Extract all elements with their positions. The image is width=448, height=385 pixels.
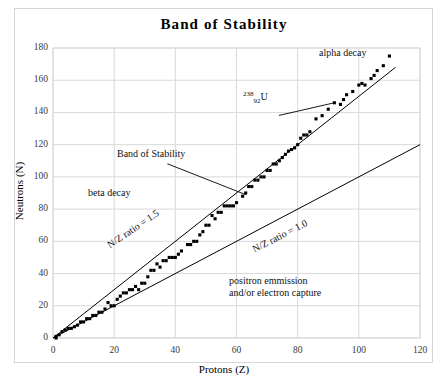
data-point xyxy=(388,55,391,58)
data-point xyxy=(308,130,311,133)
data-point xyxy=(360,82,363,85)
x-tick-label: 120 xyxy=(400,345,440,355)
data-point xyxy=(174,256,177,259)
data-point xyxy=(293,146,296,149)
data-point xyxy=(207,224,210,227)
data-point xyxy=(275,162,278,165)
data-point xyxy=(201,230,204,233)
u238-atomic-number: 92 xyxy=(254,97,261,105)
x-tick-label: 40 xyxy=(155,345,195,355)
data-point xyxy=(370,77,373,80)
data-point xyxy=(296,143,299,146)
data-point xyxy=(284,153,287,156)
data-point xyxy=(189,243,192,246)
y-tick-label: 180 xyxy=(20,42,48,52)
data-point xyxy=(128,288,131,291)
data-point xyxy=(155,262,158,265)
data-point xyxy=(253,179,256,182)
data-point xyxy=(217,211,220,214)
data-point xyxy=(287,150,290,153)
u238-element-symbol: U xyxy=(261,91,268,102)
annotation-uranium-238: 23892U xyxy=(243,88,268,107)
data-point xyxy=(91,314,94,317)
data-point xyxy=(321,114,324,117)
data-point xyxy=(79,320,82,323)
data-point xyxy=(116,298,119,301)
data-point xyxy=(55,335,58,338)
data-point xyxy=(235,201,238,204)
data-point xyxy=(137,288,140,291)
data-point xyxy=(195,240,198,243)
y-tick-label: 0 xyxy=(20,332,48,342)
data-point xyxy=(223,204,226,207)
u238-mass-number: 238 xyxy=(243,90,254,98)
data-point xyxy=(259,175,262,178)
data-point xyxy=(119,295,122,298)
data-point xyxy=(299,137,302,140)
data-point xyxy=(180,249,183,252)
data-point xyxy=(256,179,259,182)
data-point xyxy=(220,211,223,214)
data-point xyxy=(262,175,265,178)
data-point xyxy=(122,291,125,294)
y-axis-title: Neutrons (N) xyxy=(13,136,25,246)
data-point xyxy=(198,233,201,236)
annotation-band-of-stability: Band of Stability xyxy=(117,148,185,160)
data-point xyxy=(342,98,345,101)
data-point xyxy=(226,204,229,207)
data-point xyxy=(229,204,232,207)
positron-line-1: positron emmission xyxy=(229,275,321,287)
data-point xyxy=(100,311,103,314)
data-point xyxy=(67,327,70,330)
y-tick-label: 20 xyxy=(20,300,48,310)
data-point xyxy=(131,288,134,291)
data-point xyxy=(107,301,110,304)
chart-container: Band of Stability 1801601401201008060402… xyxy=(0,0,448,385)
leader-line-band-of-stability xyxy=(167,164,245,195)
data-point xyxy=(88,317,91,320)
data-point xyxy=(266,169,269,172)
data-point xyxy=(204,224,207,227)
data-point xyxy=(373,74,376,77)
data-point xyxy=(165,259,168,262)
data-point xyxy=(125,291,128,294)
data-point xyxy=(382,64,385,67)
data-point xyxy=(110,304,113,307)
data-point xyxy=(302,133,305,136)
data-point xyxy=(339,103,342,106)
y-tick-label: 40 xyxy=(20,268,48,278)
data-point xyxy=(345,93,348,96)
data-point xyxy=(177,253,180,256)
data-point xyxy=(363,84,366,87)
plot-area xyxy=(0,0,448,385)
x-axis-title: Protons (Z) xyxy=(0,363,448,375)
data-point xyxy=(333,101,336,104)
annotation-alpha-decay: alpha decay xyxy=(319,47,366,59)
data-point xyxy=(241,195,244,198)
data-point xyxy=(82,320,85,323)
data-point xyxy=(327,108,330,111)
data-point xyxy=(305,133,308,136)
data-point xyxy=(143,282,146,285)
data-point xyxy=(244,191,247,194)
x-tick-label: 0 xyxy=(33,345,73,355)
annotation-positron-emission: positron emmission and/or electron captu… xyxy=(229,275,321,299)
data-point xyxy=(269,169,272,172)
data-point xyxy=(70,327,73,330)
data-point xyxy=(278,159,281,162)
data-point xyxy=(146,275,149,278)
data-point xyxy=(113,304,116,307)
data-point xyxy=(357,84,360,87)
data-point xyxy=(149,269,152,272)
data-point xyxy=(232,204,235,207)
data-point xyxy=(186,243,189,246)
annotation-beta-decay: beta decay xyxy=(88,187,130,199)
data-point xyxy=(103,307,106,310)
data-point xyxy=(85,317,88,320)
data-point xyxy=(247,185,250,188)
data-point xyxy=(210,214,213,217)
annotation-leader-lines xyxy=(167,103,334,195)
data-point xyxy=(73,325,76,328)
data-point xyxy=(162,259,165,262)
data-point xyxy=(58,333,61,336)
